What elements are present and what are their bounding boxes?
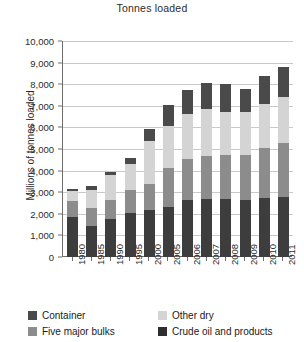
y-axis-tick-label: 9,000 bbox=[30, 57, 54, 68]
y-axis-tick-label: 3,000 bbox=[30, 187, 54, 198]
y-axis-tick-label: 7,000 bbox=[30, 100, 54, 111]
bar-segment[interactable] bbox=[259, 76, 270, 103]
bar-segment[interactable] bbox=[182, 90, 193, 114]
bar-segment[interactable] bbox=[220, 84, 231, 111]
chart-legend: ContainerOther dryFive major bulksCrude … bbox=[28, 307, 294, 339]
plot-area bbox=[62, 41, 292, 257]
legend-item[interactable]: Container bbox=[28, 310, 158, 321]
bar-segment[interactable] bbox=[67, 201, 78, 217]
x-axis-tick-label: 1990 bbox=[114, 244, 125, 265]
bar-segment[interactable] bbox=[278, 67, 289, 97]
y-axis-tick-label: 0 bbox=[49, 252, 54, 263]
legend-item[interactable]: Other dry bbox=[158, 310, 294, 321]
x-axis-tick-label: 1995 bbox=[133, 244, 144, 265]
x-axis-tick-mark bbox=[282, 257, 283, 261]
bar-segment[interactable] bbox=[259, 104, 270, 148]
x-axis-tick-label: 2006 bbox=[191, 244, 202, 265]
x-axis-tick-label: 2011 bbox=[286, 245, 297, 265]
legend-label: Five major bulks bbox=[42, 326, 115, 337]
bar-segment[interactable] bbox=[240, 112, 251, 155]
bar-segment[interactable] bbox=[220, 155, 231, 199]
bar-segment[interactable] bbox=[67, 191, 78, 201]
legend-label: Container bbox=[42, 310, 85, 321]
x-axis-tick-mark bbox=[225, 257, 226, 261]
y-axis-tick-label: 2,000 bbox=[30, 208, 54, 219]
bar-segment[interactable] bbox=[144, 184, 155, 211]
bar-slot[interactable] bbox=[125, 41, 136, 257]
x-axis-tick-label: 2007 bbox=[210, 244, 221, 265]
bar-segment[interactable] bbox=[163, 126, 174, 168]
bar-segment[interactable] bbox=[182, 114, 193, 160]
bar-slot[interactable] bbox=[278, 41, 289, 257]
bar-slot[interactable] bbox=[240, 41, 251, 257]
bar-segment[interactable] bbox=[105, 172, 116, 175]
x-axis-tick-mark bbox=[72, 257, 73, 261]
legend-swatch-icon bbox=[28, 311, 37, 320]
bar-slot[interactable] bbox=[201, 41, 212, 257]
bar-series-group bbox=[63, 41, 293, 257]
x-axis-tick-label: 2010 bbox=[267, 244, 278, 265]
bar-segment[interactable] bbox=[125, 158, 136, 164]
bar-segment[interactable] bbox=[125, 190, 136, 213]
legend-item[interactable]: Five major bulks bbox=[28, 326, 158, 337]
bar-segment[interactable] bbox=[105, 200, 116, 219]
x-axis-tick-labels: 1980198519901995200020052006200720082009… bbox=[62, 257, 292, 303]
legend-item[interactable]: Crude oil and products bbox=[158, 326, 294, 337]
bar-segment[interactable] bbox=[220, 112, 231, 155]
x-axis-tick-label: 2009 bbox=[248, 244, 259, 265]
x-axis-tick-mark bbox=[129, 257, 130, 261]
y-axis-tick-label: 8,000 bbox=[30, 79, 54, 90]
legend-swatch-icon bbox=[158, 311, 167, 320]
x-axis-tick-mark bbox=[206, 257, 207, 261]
legend-swatch-icon bbox=[158, 327, 167, 336]
y-axis-tick-label: 4,000 bbox=[30, 165, 54, 176]
x-axis-tick-label: 2008 bbox=[229, 244, 240, 265]
bar-slot[interactable] bbox=[163, 41, 174, 257]
bar-segment[interactable] bbox=[163, 105, 174, 126]
bar-segment[interactable] bbox=[278, 97, 289, 142]
bar-segment[interactable] bbox=[86, 190, 97, 208]
bar-segment[interactable] bbox=[201, 156, 212, 199]
bar-segment[interactable] bbox=[182, 159, 193, 199]
bar-segment[interactable] bbox=[125, 164, 136, 190]
bar-segment[interactable] bbox=[163, 168, 174, 206]
chart-container: Tonnes loaded Millions of tonnes loaded … bbox=[0, 0, 304, 342]
y-axis-tick-label: 10,000 bbox=[25, 36, 54, 47]
legend-label: Crude oil and products bbox=[172, 326, 273, 337]
bar-slot[interactable] bbox=[220, 41, 231, 257]
y-axis-tick-label: 1,000 bbox=[30, 230, 54, 241]
y-axis-tick-label: 5,000 bbox=[30, 144, 54, 155]
bar-segment[interactable] bbox=[240, 155, 251, 201]
bar-segment[interactable] bbox=[259, 148, 270, 198]
bar-segment[interactable] bbox=[278, 143, 289, 197]
bar-slot[interactable] bbox=[105, 41, 116, 257]
x-axis-tick-mark bbox=[148, 257, 149, 261]
bar-slot[interactable] bbox=[67, 41, 78, 257]
bar-segment[interactable] bbox=[86, 208, 97, 225]
x-axis-tick-label: 1980 bbox=[76, 244, 87, 265]
bar-segment[interactable] bbox=[201, 83, 212, 108]
x-axis-tick-mark bbox=[167, 257, 168, 261]
x-axis-tick-label: 2000 bbox=[152, 244, 163, 265]
bar-segment[interactable] bbox=[201, 109, 212, 157]
x-axis-tick-label: 1985 bbox=[95, 244, 106, 265]
bar-segment[interactable] bbox=[86, 186, 97, 190]
x-axis-tick-mark bbox=[244, 257, 245, 261]
bar-slot[interactable] bbox=[144, 41, 155, 257]
bar-segment[interactable] bbox=[144, 129, 155, 140]
bar-segment[interactable] bbox=[105, 175, 116, 200]
legend-label: Other dry bbox=[172, 310, 214, 321]
x-axis-tick-label: 2005 bbox=[171, 244, 182, 265]
y-axis-tick-label: 6,000 bbox=[30, 122, 54, 133]
legend-swatch-icon bbox=[28, 327, 37, 336]
x-axis-tick-mark bbox=[110, 257, 111, 261]
bar-slot[interactable] bbox=[86, 41, 97, 257]
bar-segment[interactable] bbox=[144, 141, 155, 184]
x-axis-tick-mark bbox=[91, 257, 92, 261]
y-axis-tick-labels: 01,0002,0003,0004,0005,0006,0007,0008,00… bbox=[0, 0, 62, 342]
bar-segment[interactable] bbox=[240, 89, 251, 113]
bar-slot[interactable] bbox=[182, 41, 193, 257]
x-axis-tick-mark bbox=[263, 257, 264, 261]
bar-slot[interactable] bbox=[259, 41, 270, 257]
bar-segment[interactable] bbox=[67, 189, 78, 191]
